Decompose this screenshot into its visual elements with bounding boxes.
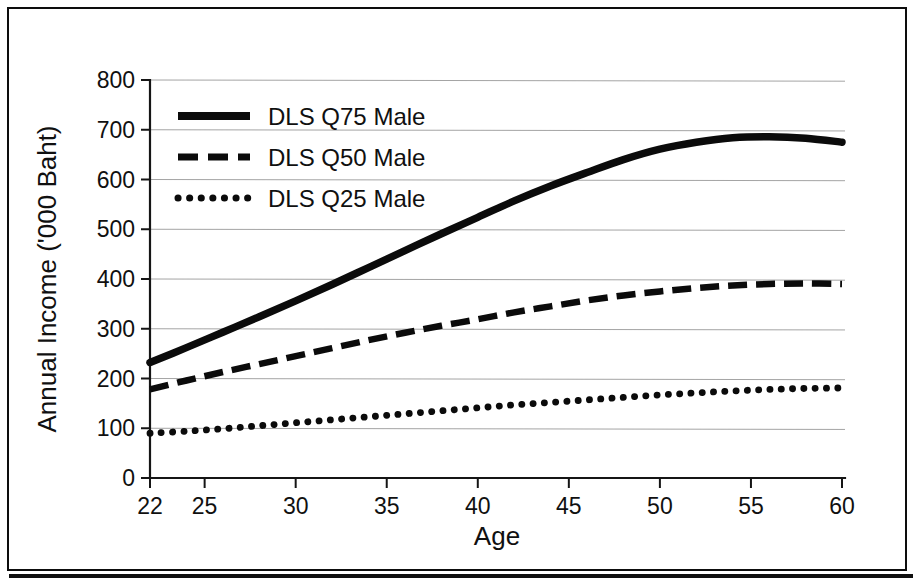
- x-tick-label: 60: [829, 493, 855, 519]
- y-tick-label: 300: [97, 316, 135, 342]
- y-tick-label: 100: [97, 415, 135, 441]
- x-axis-title: Age: [474, 521, 520, 551]
- x-tick-label: 55: [738, 493, 764, 519]
- chart-plot-svg: 0100200300400500600700800 22253035404550…: [0, 0, 918, 585]
- gridline: [150, 279, 845, 280]
- y-axis-title: Annual Income ('000 Baht): [32, 125, 62, 432]
- gridline: [150, 130, 845, 131]
- x-tick-label: 45: [556, 493, 582, 519]
- x-tick-label: 50: [647, 493, 673, 519]
- gridline: [150, 80, 845, 81]
- x-tick-label: 25: [192, 493, 218, 519]
- series-line-dotted: [150, 388, 842, 433]
- income-by-age-chart: 0100200300400500600700800 22253035404550…: [0, 0, 918, 585]
- legend-label: DLS Q75 Male: [268, 103, 425, 130]
- y-tick-label: 0: [122, 465, 135, 491]
- y-axis-ticks: [141, 80, 150, 478]
- y-tick-label: 700: [97, 117, 135, 143]
- y-tick-label: 800: [97, 67, 135, 93]
- x-tick-label: 35: [374, 493, 400, 519]
- y-tick-label: 200: [97, 366, 135, 392]
- gridline: [150, 180, 845, 181]
- y-tick-label: 600: [97, 167, 135, 193]
- chart-legend: DLS Q75 MaleDLS Q50 MaleDLS Q25 Male: [178, 103, 425, 212]
- data-series-group: [150, 137, 842, 434]
- gridlines: [150, 80, 845, 429]
- x-axis-tick-labels: 222530354045505560: [137, 493, 855, 519]
- y-axis-tick-labels: 0100200300400500600700800: [97, 67, 135, 491]
- gridline: [150, 379, 845, 380]
- series-line-dashed: [150, 283, 842, 389]
- x-tick-label: 30: [283, 493, 309, 519]
- y-tick-label: 500: [97, 216, 135, 242]
- x-axis-ticks: [150, 478, 842, 488]
- legend-label: DLS Q25 Male: [268, 185, 425, 212]
- x-tick-label: 40: [465, 493, 491, 519]
- y-tick-label: 400: [97, 266, 135, 292]
- x-tick-label: 22: [137, 493, 163, 519]
- gridline: [150, 329, 845, 330]
- legend-label: DLS Q50 Male: [268, 144, 425, 171]
- gridline: [150, 229, 845, 230]
